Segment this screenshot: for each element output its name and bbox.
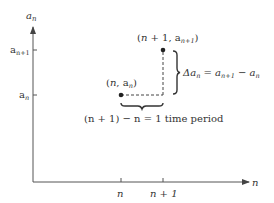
x-tick-label-n1: n + 1 [150,188,178,199]
x-axis-label: n [252,177,258,188]
point-label-n1-an1: (n + 1, an+1) [137,32,199,45]
vertical-brace [173,51,180,94]
point-n1-an1 [161,48,166,53]
y-tick-label-an: an [19,89,29,102]
point-label-n-an: (n, an) [106,77,137,90]
delta-equation: Δan = an+1 − an [182,67,260,80]
x-tick-label-n: n [117,188,123,199]
time-period-label: (n + 1) − n = 1 time period [84,113,224,124]
y-tick-label-an1: an+1 [10,44,30,57]
point-n-an [119,93,124,98]
difference-equation-diagram: an n an+1 an n n + 1 (n, an) (n + 1, an+… [0,0,274,203]
horizontal-brace [121,103,163,109]
y-axis-label: an [26,10,37,23]
